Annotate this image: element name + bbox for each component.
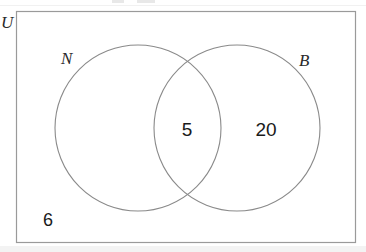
- set-label-b: B: [299, 52, 309, 69]
- venn-diagram-figure: U N B 5 20 6: [0, 0, 366, 252]
- region-count-intersection: 5: [182, 120, 193, 139]
- region-count-outside: 6: [43, 211, 53, 229]
- set-label-n: N: [61, 50, 72, 67]
- region-count-b-only: 20: [255, 120, 276, 139]
- page-edge-band: [0, 246, 366, 252]
- universal-set-label: U: [1, 14, 13, 31]
